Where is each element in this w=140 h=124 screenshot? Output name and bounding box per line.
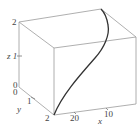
box-edge-left-top [19, 22, 54, 48]
y-tick-label-1: 1 [27, 96, 32, 106]
space-curve [54, 9, 108, 115]
bounding-box [19, 9, 136, 115]
box-edge-back-top [19, 9, 101, 22]
z-axis-label: z 1 [6, 51, 17, 61]
box-edge-front-bottom [54, 104, 136, 115]
y-tick-label-2: 2 [45, 113, 50, 123]
x-axis-label: x [97, 116, 102, 124]
box-edge-front-top [54, 37, 136, 48]
3d-plot: 2 z 1 0 0 1 y 2 20 10 x [0, 0, 140, 124]
y-axis-label: y [16, 104, 21, 114]
x-tick-label-20: 20 [70, 113, 80, 123]
box-edge-left-bottom [19, 87, 54, 115]
box-edge-right-top [101, 9, 136, 37]
plot-canvas: 2 z 1 0 0 1 y 2 20 10 x [0, 0, 140, 124]
x-tick-label-10: 10 [104, 109, 114, 119]
z-tick-label-2: 2 [12, 17, 17, 27]
y-tick-label-0: 0 [13, 87, 18, 97]
